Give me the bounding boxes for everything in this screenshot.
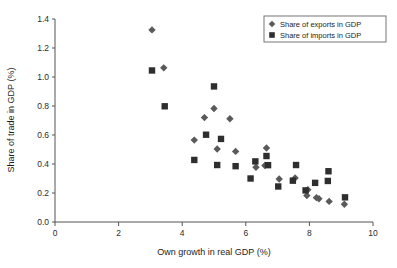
y-axis-title: Share of trade in GDP (%) [6, 68, 16, 173]
data-point-square [325, 168, 331, 174]
y-tick-label: 0.4 [37, 159, 49, 169]
data-point-square [218, 136, 224, 142]
data-point-square [312, 180, 318, 186]
x-tick-label: 10 [368, 228, 378, 238]
data-point-square [252, 158, 258, 164]
chart-legend: Share of exports in GDPShare of imports … [264, 16, 386, 42]
data-point-square [293, 162, 299, 168]
data-point-square [214, 162, 220, 168]
y-tick-label: 1.2 [37, 43, 49, 53]
data-point-square [302, 187, 308, 193]
data-point-square [232, 163, 238, 169]
data-point-square [263, 153, 269, 159]
y-tick-label: 0.2 [37, 188, 49, 198]
y-tick-label: 1.0 [37, 72, 49, 82]
y-tick-label: 0.8 [37, 101, 49, 111]
y-tick-label: 0.6 [37, 130, 49, 140]
x-tick-label: 0 [53, 228, 58, 238]
x-tick-label: 8 [307, 228, 312, 238]
data-point-square [191, 157, 197, 163]
legend-label-0: Share of exports in GDP [280, 20, 361, 29]
y-tick-label: 1.4 [37, 14, 49, 24]
y-tick-label: 0.0 [37, 217, 49, 227]
x-tick-label: 6 [243, 228, 248, 238]
x-tick-label: 4 [180, 228, 185, 238]
scatter-chart: 0.00.20.40.60.81.01.21.4 0246810 Share o… [0, 0, 397, 268]
data-point-square [265, 162, 271, 168]
data-point-square [149, 67, 155, 73]
data-point-square [342, 194, 348, 200]
data-point-square [162, 103, 168, 109]
data-point-square [203, 132, 209, 138]
legend-marker-square [269, 32, 275, 38]
data-point-square [247, 175, 253, 181]
legend-label-1: Share of imports in GDP [280, 31, 361, 40]
data-point-square [290, 177, 296, 183]
data-point-square [211, 83, 217, 89]
data-point-square [275, 183, 281, 189]
x-axis-title: Own growth in real GDP (%) [157, 247, 270, 257]
x-tick-label: 2 [116, 228, 121, 238]
chart-canvas: 0.00.20.40.60.81.01.21.4 0246810 Share o… [0, 0, 397, 268]
data-point-square [325, 178, 331, 184]
